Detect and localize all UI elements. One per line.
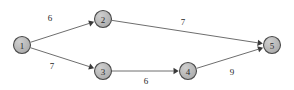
graph-node-label: 4 (186, 67, 191, 77)
graph-node-5[interactable]: 5 (264, 37, 281, 54)
graph-node-label: 3 (101, 67, 106, 77)
graph-canvas: 67769 12345 (0, 0, 294, 90)
graph-node-label: 1 (20, 41, 25, 51)
graph-node-4[interactable]: 4 (180, 63, 197, 80)
graph-node-1[interactable]: 1 (14, 37, 31, 54)
graph-node-2[interactable]: 2 (95, 11, 112, 28)
graph-node-label: 2 (101, 15, 106, 25)
graph-edge-weight: 9 (230, 67, 235, 77)
edges-layer (31, 20, 264, 74)
graph-edge (31, 48, 90, 67)
graph-edge (197, 49, 259, 68)
graph-edge-weight: 7 (181, 17, 186, 27)
graph-edge-arrowhead (174, 68, 179, 74)
graph-edge-weight: 6 (144, 76, 149, 86)
edge-weights-layer: 67769 (48, 13, 235, 86)
graph-edge-arrowhead (257, 40, 263, 46)
graph-edge-weight: 7 (50, 61, 55, 71)
graph-node-3[interactable]: 3 (95, 63, 112, 80)
graph-edge-weight: 6 (48, 13, 53, 23)
graph-edge (31, 23, 90, 42)
graph-figure: 67769 12345 (0, 0, 294, 90)
graph-node-label: 5 (270, 41, 275, 51)
